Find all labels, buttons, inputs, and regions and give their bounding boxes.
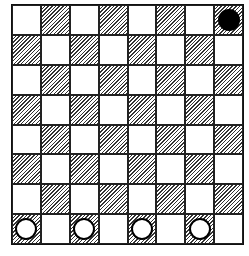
board-square-r1-c4[interactable] — [128, 35, 157, 65]
board-square-r2-c5[interactable] — [156, 65, 185, 95]
board-square-r4-c0[interactable] — [12, 125, 41, 155]
board-square-r0-c5[interactable] — [156, 5, 185, 35]
white-checker-piece[interactable] — [131, 218, 153, 240]
board-square-r2-c4[interactable] — [128, 65, 157, 95]
board-square-r0-c2[interactable] — [70, 5, 99, 35]
board-square-r6-c0[interactable] — [12, 184, 41, 214]
board-square-r5-c1[interactable] — [41, 154, 70, 184]
board-square-r7-c3[interactable] — [99, 214, 128, 244]
board-square-r1-c5[interactable] — [156, 35, 185, 65]
white-checker-piece[interactable] — [73, 218, 95, 240]
board-square-r3-c7[interactable] — [214, 95, 243, 125]
board-square-r1-c7[interactable] — [214, 35, 243, 65]
board-square-r2-c0[interactable] — [12, 65, 41, 95]
board-square-r3-c4[interactable] — [128, 95, 157, 125]
board-square-r2-c7[interactable] — [214, 65, 243, 95]
board-square-r3-c2[interactable] — [70, 95, 99, 125]
board-square-r3-c3[interactable] — [99, 95, 128, 125]
board-square-r0-c3[interactable] — [99, 5, 128, 35]
board-square-r4-c1[interactable] — [41, 125, 70, 155]
board-square-r5-c3[interactable] — [99, 154, 128, 184]
board-square-r6-c3[interactable] — [99, 184, 128, 214]
board-square-r4-c4[interactable] — [128, 125, 157, 155]
board-square-r7-c1[interactable] — [41, 214, 70, 244]
board-square-r6-c1[interactable] — [41, 184, 70, 214]
board-square-r1-c6[interactable] — [185, 35, 214, 65]
white-checker-piece[interactable] — [15, 218, 37, 240]
board-square-r0-c6[interactable] — [185, 5, 214, 35]
board-square-r4-c3[interactable] — [99, 125, 128, 155]
board-square-r3-c1[interactable] — [41, 95, 70, 125]
black-checker-piece[interactable] — [218, 9, 240, 31]
board-square-r7-c6[interactable] — [185, 214, 214, 244]
board-square-r1-c2[interactable] — [70, 35, 99, 65]
board-square-r7-c7[interactable] — [214, 214, 243, 244]
board-square-r5-c2[interactable] — [70, 154, 99, 184]
checkerboard — [11, 4, 244, 245]
board-square-r6-c5[interactable] — [156, 184, 185, 214]
board-square-r3-c5[interactable] — [156, 95, 185, 125]
board-square-r5-c6[interactable] — [185, 154, 214, 184]
board-square-r4-c2[interactable] — [70, 125, 99, 155]
board-square-r2-c6[interactable] — [185, 65, 214, 95]
board-square-r5-c4[interactable] — [128, 154, 157, 184]
board-square-r5-c0[interactable] — [12, 154, 41, 184]
board-square-r0-c1[interactable] — [41, 5, 70, 35]
board-square-r2-c3[interactable] — [99, 65, 128, 95]
board-square-r6-c2[interactable] — [70, 184, 99, 214]
board-square-r5-c7[interactable] — [214, 154, 243, 184]
board-square-r2-c2[interactable] — [70, 65, 99, 95]
board-square-r7-c2[interactable] — [70, 214, 99, 244]
board-square-r1-c1[interactable] — [41, 35, 70, 65]
board-square-r2-c1[interactable] — [41, 65, 70, 95]
board-square-r6-c7[interactable] — [214, 184, 243, 214]
board-square-r7-c4[interactable] — [128, 214, 157, 244]
board-square-r1-c3[interactable] — [99, 35, 128, 65]
board-square-r0-c4[interactable] — [128, 5, 157, 35]
board-square-r5-c5[interactable] — [156, 154, 185, 184]
board-square-r4-c5[interactable] — [156, 125, 185, 155]
board-square-r0-c7[interactable] — [214, 5, 243, 35]
white-checker-piece[interactable] — [189, 218, 211, 240]
board-square-r1-c0[interactable] — [12, 35, 41, 65]
board-square-r6-c6[interactable] — [185, 184, 214, 214]
board-square-r4-c7[interactable] — [214, 125, 243, 155]
board-square-r4-c6[interactable] — [185, 125, 214, 155]
board-square-r7-c0[interactable] — [12, 214, 41, 244]
board-square-r6-c4[interactable] — [128, 184, 157, 214]
board-square-r3-c6[interactable] — [185, 95, 214, 125]
board-square-r0-c0[interactable] — [12, 5, 41, 35]
board-square-r3-c0[interactable] — [12, 95, 41, 125]
board-square-r7-c5[interactable] — [156, 214, 185, 244]
